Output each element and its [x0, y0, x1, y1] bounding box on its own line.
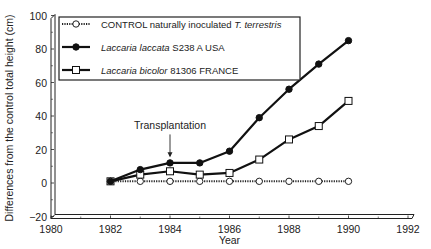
marker-open-square — [196, 171, 203, 178]
y-tick-label: 80 — [35, 43, 47, 55]
marker-filled-circle — [345, 37, 351, 43]
legend: CONTROL naturally inoculated T. terrestr… — [59, 17, 300, 80]
y-axis-title: Differences from the control total heigh… — [3, 15, 15, 222]
marker-filled-circle — [286, 86, 292, 92]
y-tick-label: 0 — [41, 177, 47, 189]
marker-filled-circle — [73, 44, 79, 50]
x-tick-label: 1990 — [337, 223, 361, 235]
chart-container: −200204060801001980198219841986198819901… — [0, 0, 431, 249]
marker-open-square — [226, 169, 233, 176]
marker-filled-circle — [107, 178, 113, 184]
marker-open-square — [256, 156, 263, 163]
legend-label: CONTROL naturally inoculated T. terrestr… — [101, 19, 282, 30]
x-axis-title: Year — [219, 234, 241, 246]
marker-filled-circle — [137, 166, 143, 172]
x-tick-label: 1982 — [99, 223, 123, 235]
x-tick-label: 1980 — [39, 223, 63, 235]
marker-open-circle — [167, 178, 173, 184]
marker-filled-circle — [226, 148, 232, 154]
marker-filled-circle — [167, 160, 173, 166]
series-open-square — [107, 97, 352, 184]
marker-open-square — [345, 97, 352, 104]
marker-filled-circle — [197, 160, 203, 166]
marker-open-square — [315, 123, 322, 130]
y-tick-label: 40 — [35, 110, 47, 122]
marker-open-circle — [197, 178, 203, 184]
line-chart: −200204060801001980198219841986198819901… — [0, 0, 431, 249]
x-tick-label: 1984 — [158, 223, 182, 235]
marker-open-square — [167, 168, 174, 175]
x-tick-label: 1988 — [277, 223, 301, 235]
marker-filled-circle — [256, 114, 262, 120]
marker-filled-circle — [316, 61, 322, 67]
transplantation-label: Transplantation — [134, 119, 206, 131]
legend-label: Laccaria bicolor 81306 FRANCE — [101, 65, 238, 76]
x-tick-label: 1992 — [396, 223, 420, 235]
legend-label: Laccaria laccata S238 A USA — [101, 42, 225, 53]
y-tick-label: 60 — [35, 77, 47, 89]
y-tick-label: 100 — [29, 10, 47, 22]
marker-open-circle — [345, 178, 351, 184]
marker-open-circle — [226, 178, 232, 184]
annotation-layer: Transplantation — [134, 119, 206, 157]
marker-open-circle — [137, 178, 143, 184]
series-open-circle — [107, 178, 351, 184]
marker-open-circle — [316, 178, 322, 184]
marker-open-circle — [256, 178, 262, 184]
marker-open-square — [286, 136, 293, 143]
y-tick-label: 20 — [35, 144, 47, 156]
marker-open-square — [73, 67, 80, 74]
y-tick-label: −20 — [29, 211, 47, 223]
marker-open-circle — [73, 21, 79, 27]
marker-open-circle — [286, 178, 292, 184]
